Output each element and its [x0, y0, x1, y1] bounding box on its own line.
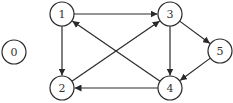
node-label: 0	[11, 46, 18, 59]
edges-layer	[62, 14, 210, 88]
node-label: 1	[59, 8, 66, 21]
node-label: 3	[167, 8, 174, 21]
node-label: 5	[217, 45, 224, 58]
node-1: 1	[50, 2, 74, 26]
node-label: 4	[167, 82, 174, 95]
node-0: 0	[2, 40, 26, 64]
directed-graph: 012345	[0, 0, 233, 103]
edge-3-to-5	[180, 21, 210, 43]
node-4: 4	[158, 76, 182, 100]
node-5: 5	[208, 39, 232, 63]
edge-5-to-4	[180, 58, 210, 80]
node-2: 2	[50, 76, 74, 100]
node-3: 3	[158, 2, 182, 26]
node-label: 2	[59, 82, 66, 95]
